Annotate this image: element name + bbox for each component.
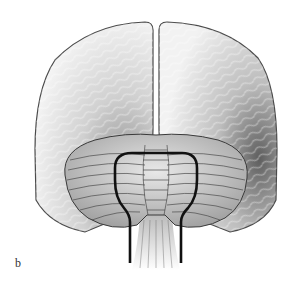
panel-label: b [15,256,21,271]
cerebellum [65,134,248,227]
brain-illustration [0,0,297,290]
